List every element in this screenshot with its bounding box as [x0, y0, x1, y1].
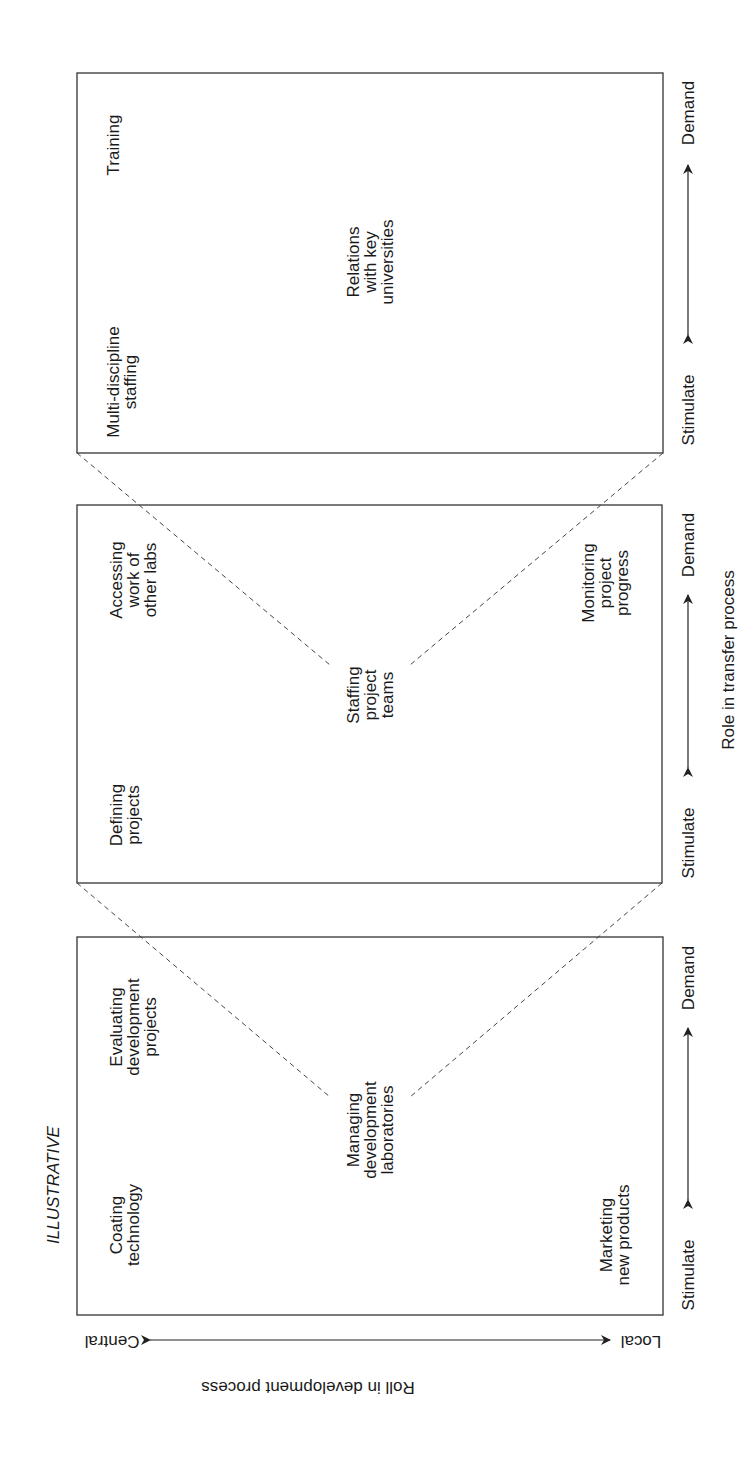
central-label: Central: [85, 1333, 140, 1350]
panel-center-staffing: Staffing project teams: [345, 666, 396, 723]
demand-label: Demand: [680, 946, 697, 1010]
label-evaluating-projects: Evaluating development projects: [108, 978, 159, 1075]
label-defining-projects: Defining projects: [108, 784, 142, 846]
label-accessing-work: Accessing work of other labs: [108, 541, 159, 618]
demand-label: Demand: [680, 81, 697, 145]
stimulate-label: Stimulate: [680, 375, 697, 446]
label-monitoring-progress: Monitoring project progress: [580, 543, 631, 622]
stimulate-label: Stimulate: [680, 1240, 697, 1311]
panel-center-managing: Managing development laboratories: [345, 1081, 396, 1178]
development-axis-title: Roll in development process: [201, 1379, 415, 1396]
stimulate-label: Stimulate: [680, 808, 697, 879]
panel-center-universities: Relations with key universities: [345, 219, 396, 304]
local-label: Local: [621, 1333, 662, 1350]
transfer-axis-title: Role in transfer process: [720, 570, 737, 750]
demand-label: Demand: [680, 513, 697, 577]
label-training: Training: [105, 115, 122, 176]
label-coating-technology: Coating technology: [108, 1184, 142, 1266]
label-marketing-new-products: Marketing new products: [598, 1184, 632, 1285]
illustrative-stamp: ILLUSTRATIVE: [45, 1126, 62, 1244]
zoom-line: [410, 883, 662, 1097]
label-multi-discipline-staffing: Multi-discipline staffing: [105, 326, 139, 437]
